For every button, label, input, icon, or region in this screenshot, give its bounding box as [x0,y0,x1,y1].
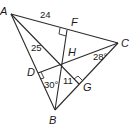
orthocenter-diagram: A B C H F D G 24 25 11 30° 28° [0,0,138,128]
label-h: H [68,46,76,58]
measure-af: 24 [40,9,51,20]
right-angle-f [59,28,66,36]
side-ac [11,14,118,43]
measure-hg: 11 [63,75,73,86]
label-a: A [0,5,7,17]
label-c: C [121,37,129,49]
measure-ah: 25 [31,42,42,53]
angle-hcg: 28° [93,51,108,62]
angle-dbh: 30° [44,79,59,90]
label-b: B [49,114,56,126]
label-d: D [27,66,35,78]
side-ab [11,14,55,110]
label-g: G [83,81,92,93]
label-f: F [71,16,79,28]
